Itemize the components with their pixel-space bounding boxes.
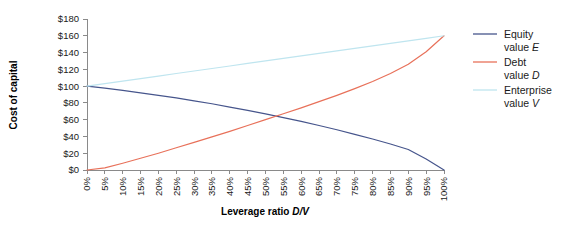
x-axis-title-plain: Leverage ratio: [221, 206, 292, 217]
legend-label-line2: value D: [504, 69, 540, 81]
x-tick-label: 30%: [189, 176, 200, 196]
x-tick-label: 80%: [367, 176, 378, 196]
y-tick-label: $100: [58, 81, 79, 92]
legend-label-plain: value: [504, 97, 532, 109]
x-tick-label: 50%: [260, 176, 271, 196]
legend-label-line1: Equity: [504, 28, 534, 40]
legend-label-plain: value: [504, 41, 532, 53]
legend-label-italic: E: [532, 41, 540, 53]
x-tick-label: 65%: [313, 176, 324, 196]
x-tick-label: 20%: [153, 176, 164, 196]
y-tick-label: $40: [63, 131, 79, 142]
y-tick-label: $60: [63, 114, 79, 125]
legend-label-italic: V: [532, 97, 540, 109]
x-tick-label: 100%: [438, 176, 449, 201]
y-tick-label: $160: [58, 30, 79, 41]
legend-label-line2: value V: [504, 97, 540, 109]
x-tick-label: 15%: [135, 176, 146, 196]
legend-label-italic: D: [532, 69, 540, 81]
y-tick-label: $80: [63, 97, 79, 108]
legend-label-line2: value E: [504, 41, 540, 53]
x-tick-label: 70%: [331, 176, 342, 196]
x-tick-label: 5%: [99, 176, 110, 190]
x-tick-label: 60%: [296, 176, 307, 196]
x-tick-label: 85%: [385, 176, 396, 196]
legend-label-line1: Debt: [504, 56, 526, 68]
y-tick-label: $20: [63, 148, 79, 159]
x-tick-label: 0%: [81, 176, 92, 190]
x-tick-label: 40%: [224, 176, 235, 196]
cost-of-capital-chart: Cost of capital $0$20$40$60$80$100$120$1…: [0, 0, 568, 232]
x-tick-label: 35%: [206, 176, 217, 196]
y-tick-label: $180: [58, 13, 79, 24]
y-axis-title-text: Cost of capital: [8, 60, 19, 129]
y-tick-label: $140: [58, 47, 79, 58]
x-axis-title: Leverage ratio D/V: [221, 206, 310, 217]
chart-background: [0, 0, 568, 232]
x-tick-label: 10%: [117, 176, 128, 196]
x-tick-label: 25%: [171, 176, 182, 196]
chart-svg: Cost of capital $0$20$40$60$80$100$120$1…: [0, 0, 568, 232]
x-tick-label: 95%: [421, 176, 432, 196]
y-tick-label: $120: [58, 64, 79, 75]
legend-label-line1: Enterprise: [504, 84, 552, 96]
x-axis-title-text: Leverage ratio D/V: [221, 206, 310, 217]
x-axis-title-italic: D/V: [292, 206, 310, 217]
y-axis-title: Cost of capital: [8, 60, 19, 129]
y-tick-label: $0: [68, 164, 79, 175]
x-tick-label: 90%: [403, 176, 414, 196]
x-tick-label: 75%: [349, 176, 360, 196]
x-tick-label: 45%: [242, 176, 253, 196]
legend-label-plain: value: [504, 69, 532, 81]
x-tick-label: 55%: [278, 176, 289, 196]
